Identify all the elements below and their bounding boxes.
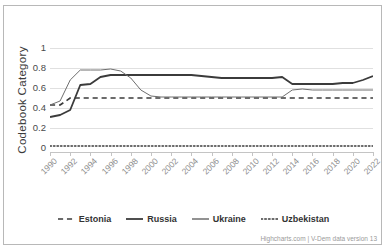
x-axis-tick-label: 2016 [299,156,322,179]
x-axis-tick-labels: 1990199219941996199820002002200420062008… [50,152,373,198]
series-line-estonia[interactable] [50,98,373,105]
x-axis-tick-mark [212,152,213,156]
x-axis-tick-label: 2006 [198,156,221,179]
legend-item-uzbekistan[interactable]: Uzbekistan [261,214,330,224]
y-axis-tick-labels: 00.20.40.60.81 [16,48,46,148]
y-axis-tick-label: 0.2 [20,123,46,133]
x-axis-tick-label: 2000 [137,156,160,179]
x-axis-tick-label: 1994 [77,156,100,179]
y-axis-tick-label: 0.8 [20,63,46,73]
legend-swatch-icon [261,215,278,223]
legend-label: Ukraine [213,214,246,224]
y-axis-tick-label: 0.4 [20,103,46,113]
chart-legend[interactable]: EstoniaRussiaUkraineUzbekistan [4,214,382,224]
series-line-russia[interactable] [50,75,373,117]
legend-label: Russia [147,214,177,224]
chart-container: Codebook Category 00.20.40.60.81 1990199… [3,5,382,245]
series-plot [50,48,373,148]
x-axis-tick-label: 2018 [319,156,342,179]
plot-area [50,48,373,148]
credits-label[interactable]: Highcharts.com | V-Dem data version 13 [260,235,377,242]
legend-swatch-icon [126,215,143,223]
x-axis-tick-label: 2008 [218,156,241,179]
x-axis-tick-mark [232,152,233,156]
x-axis-tick-label: 2004 [178,156,201,179]
legend-swatch-icon [192,215,209,223]
legend-item-russia[interactable]: Russia [126,214,177,224]
legend-item-estonia[interactable]: Estonia [58,214,112,224]
x-axis-tick-label: 1992 [57,156,80,179]
x-axis-tick-label: 2010 [238,156,261,179]
x-axis-tick-label: 2002 [158,156,181,179]
y-axis-tick-label: 1 [20,43,46,53]
chart-title [4,5,382,6]
x-axis-tick-label: 2012 [259,156,282,179]
y-axis-tick-label: 0.6 [20,83,46,93]
legend-label: Uzbekistan [282,214,330,224]
legend-swatch-icon [58,215,75,223]
legend-label: Estonia [79,214,112,224]
x-axis-tick-label: 1998 [117,156,140,179]
y-axis-tick-label: 0 [20,143,46,153]
x-axis-tick-mark [333,152,334,156]
x-axis-tick-mark [111,152,112,156]
series-line-ukraine[interactable] [50,69,373,105]
x-axis-tick-label: 2020 [339,156,362,179]
legend-item-ukraine[interactable]: Ukraine [192,214,246,224]
x-axis-tick-label: 2014 [279,156,302,179]
x-axis-tick-label: 1990 [36,156,59,179]
x-axis-tick-label: 2022 [359,156,382,179]
x-axis-tick-label: 1996 [97,156,120,179]
